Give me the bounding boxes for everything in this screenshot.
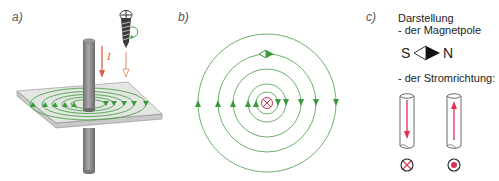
conductor-rod-upper [83, 41, 95, 110]
magnet-pole-icon [414, 46, 440, 60]
panel-b-illustration [195, 34, 339, 172]
conductor-current-up-icon [447, 94, 461, 149]
legend-title: Darstellung [398, 12, 454, 24]
south-pole-label: S [401, 45, 410, 61]
current-into-page-symbol-icon [401, 159, 413, 171]
compass-needle-icon [259, 50, 274, 58]
field-arrows-down [275, 99, 339, 106]
panel-a-illustration: I [17, 11, 162, 175]
screw-direction-arrow-icon [123, 52, 129, 77]
current-into-page-icon [262, 98, 273, 109]
panel-c-legend [400, 46, 461, 171]
current-arrow-icon [99, 46, 105, 78]
north-pole-label: N [443, 45, 453, 61]
field-arrows-up [195, 100, 259, 107]
magnet-pole-heading: - der Magnetpole [398, 24, 481, 36]
current-out-of-page-symbol-icon [448, 159, 460, 171]
current-direction-heading: - der Stromrichtung: [398, 72, 495, 84]
current-symbol: I [106, 50, 112, 62]
conductor-rod-lower [83, 128, 95, 172]
screw-icon [120, 11, 138, 49]
conductor-current-down-icon [400, 94, 414, 149]
